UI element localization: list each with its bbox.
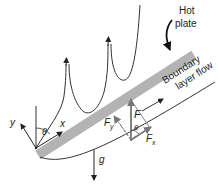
inclined-hot-plate-diagram: y x θ F θ Fy Fx g Hot plate Boundary lay… (0, 0, 219, 191)
flow-direction-arrow (142, 99, 163, 111)
force-y-label-sub: y (109, 123, 114, 131)
y-axis-arrow (21, 124, 36, 148)
hot-plate-pointer-arrow (167, 20, 173, 50)
force-x-label-sub: x (151, 139, 156, 146)
x-axis-label: x (59, 118, 66, 129)
hot-plate-label-line2: plate (175, 18, 197, 29)
plume-arrow-2 (108, 37, 109, 46)
hot-plate-label-line1: Hot (179, 5, 195, 16)
force-y-label: Fy (104, 117, 114, 131)
theta-label: θ (42, 127, 47, 137)
origin-point (35, 147, 37, 149)
gravity-label: g (99, 154, 105, 165)
diagram-canvas: y x θ F θ Fy Fx g Hot plate Boundary lay… (0, 0, 219, 191)
y-axis-label: y (9, 117, 16, 128)
plume-arrow-1 (66, 58, 67, 66)
force-theta-label: θ (134, 123, 139, 132)
force-x-label: Fx (146, 133, 156, 146)
